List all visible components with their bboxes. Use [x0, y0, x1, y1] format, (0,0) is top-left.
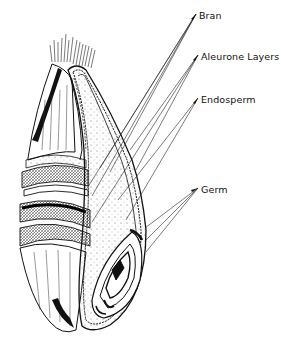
label-endosperm: Endosperm: [201, 94, 256, 105]
bran-bands: [20, 155, 90, 246]
lower-husk: [20, 244, 86, 332]
label-aleurone-layers: Aleurone Layers: [201, 51, 279, 62]
brush-hairs: [50, 34, 95, 68]
leader-arrowheads: [191, 14, 198, 192]
label-germ: Germ: [201, 184, 228, 195]
label-bran: Bran: [199, 10, 222, 21]
outer-husk: [28, 64, 75, 160]
